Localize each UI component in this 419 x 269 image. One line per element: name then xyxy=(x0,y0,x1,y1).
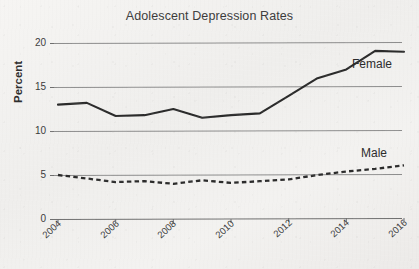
y-axis-tick-0: 0 xyxy=(12,213,46,224)
series-label-male: Male xyxy=(361,146,387,160)
gridline-20 xyxy=(54,43,402,44)
chart-container: Adolescent Depression Rates Percent 20 1… xyxy=(0,0,419,269)
gridline-5 xyxy=(54,175,402,176)
gridlines xyxy=(50,43,402,220)
y-axis-tick-15: 15 xyxy=(12,81,46,92)
ytick-marks xyxy=(50,44,54,176)
gridline-10 xyxy=(54,131,402,132)
series-label-female: Female xyxy=(352,57,392,71)
y-axis-tick-10: 10 xyxy=(12,125,46,136)
y-axis-tick-20: 20 xyxy=(12,37,46,48)
chart-title: Adolescent Depression Rates xyxy=(0,9,419,23)
line-chart-plot xyxy=(0,0,419,269)
y-axis-tick-5: 5 xyxy=(12,169,46,180)
gridline-15 xyxy=(54,87,402,88)
